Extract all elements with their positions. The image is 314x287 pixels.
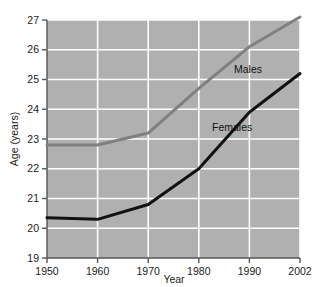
y-tick-label: 22: [27, 162, 39, 174]
line-chart: 192021222324252627 195019601970198019902…: [0, 0, 314, 287]
y-tick-label: 27: [27, 14, 39, 26]
y-tick-label: 23: [27, 133, 39, 145]
y-tick-label: 21: [27, 192, 39, 204]
y-tick-label: 25: [27, 73, 39, 85]
x-tick-label: 1950: [35, 265, 59, 277]
series-label-males: Males: [234, 63, 262, 75]
x-tick-label: 2002: [288, 265, 312, 277]
x-axis-title: Year: [163, 273, 185, 285]
x-tick-label: 1960: [86, 265, 110, 277]
y-axis-ticks: 192021222324252627: [27, 14, 47, 264]
chart-container: 192021222324252627 195019601970198019902…: [0, 0, 314, 287]
y-tick-label: 19: [27, 252, 39, 264]
y-tick-label: 26: [27, 43, 39, 55]
x-tick-label: 1980: [187, 265, 211, 277]
y-axis-title: Age (years): [8, 112, 20, 166]
y-tick-label: 20: [27, 222, 39, 234]
y-tick-label: 24: [27, 103, 39, 115]
series-label-females: Females: [212, 121, 252, 133]
x-tick-label: 1970: [137, 265, 161, 277]
x-tick-label: 1990: [238, 265, 262, 277]
